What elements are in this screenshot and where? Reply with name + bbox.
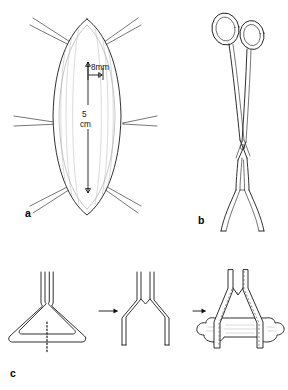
panel-b-ring-forceps: b: [198, 11, 266, 231]
panel-c-wire-loop-sequence: c: [9, 270, 284, 379]
shank-right: [242, 49, 251, 142]
sequence-arrow-2: [193, 309, 206, 314]
dimension-5cm-value: 5: [82, 110, 87, 119]
dimension-5cm-unit: cm: [80, 120, 91, 129]
panel-a-incision-with-retractors: 8mm 5 cm a: [14, 18, 157, 219]
panel-label-c: c: [10, 367, 16, 379]
finger-ring-right: [238, 19, 266, 51]
shank-lower: [236, 158, 249, 190]
sequence-arrow-1-head: [114, 309, 119, 314]
shank-left: [229, 44, 244, 140]
step-1-triangular-loop: [9, 272, 86, 352]
surgical-figure: 8mm 5 cm a: [0, 0, 288, 390]
finger-ring-left: [210, 11, 242, 47]
step-3-applied-to-bone: [197, 270, 284, 348]
step-2-opened-v: [122, 272, 169, 345]
sequence-arrow-2-head: [202, 309, 207, 314]
retractor-middle-right: [123, 116, 157, 126]
panel-label-a: a: [25, 207, 31, 219]
bone-structure: [197, 318, 284, 342]
sequence-arrow-1: [99, 309, 118, 314]
shank-crossing-hinge: [236, 140, 250, 160]
dimension-8mm-label: 8mm: [91, 63, 109, 72]
figure-root: 8mm 5 cm a: [0, 0, 288, 390]
splayed-jaws: [221, 190, 264, 231]
panel-label-b: b: [198, 214, 204, 226]
